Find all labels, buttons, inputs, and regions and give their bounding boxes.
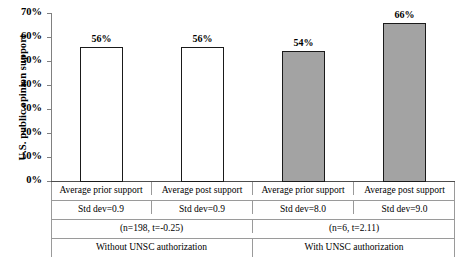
std-dev-row: Std dev=0.9 Std dev=0.9 Std dev=8.0 Std … (51, 201, 455, 214)
bar-value-label-1: 56% (80, 33, 123, 44)
y-tick-mark (47, 61, 51, 62)
bar-value-label-3: 54% (282, 37, 325, 48)
y-tick-label: 0% (26, 174, 42, 185)
bar-chart-figure: U.S. public opinion support 70% 60% 50% … (0, 0, 462, 257)
category-label-2: Average post support (152, 182, 253, 195)
y-axis-line (51, 13, 52, 182)
table-left-border (51, 182, 52, 257)
bar-2[interactable] (181, 47, 224, 182)
y-tick-label: 30% (21, 102, 42, 113)
y-tick-label: 50% (21, 54, 42, 65)
y-tick-label: 20% (21, 126, 42, 137)
y-tick-mark (47, 37, 51, 38)
y-tick-mark (47, 157, 51, 158)
bar-4[interactable] (383, 23, 426, 182)
group-label-2: With UNSC authorization (253, 239, 455, 257)
group-row: Without UNSC authorization With UNSC aut… (51, 239, 455, 257)
category-label-1: Average prior support (51, 182, 152, 195)
table-right-border (454, 182, 455, 257)
y-tick-mark (47, 13, 51, 14)
bar-value-label-4: 66% (383, 9, 426, 20)
bar-1[interactable] (80, 47, 123, 182)
std-dev-label-4: Std dev=9.0 (354, 201, 455, 214)
std-dev-label-1: Std dev=0.9 (51, 201, 152, 214)
y-tick-label: 10% (21, 150, 42, 161)
std-dev-label-3: Std dev=8.0 (253, 201, 354, 214)
category-label-3: Average prior support (253, 182, 354, 195)
category-label-table: Average prior support Average post suppo… (51, 182, 455, 257)
group-label-1: Without UNSC authorization (51, 239, 253, 257)
category-label-4: Average post support (354, 182, 455, 195)
bar-3[interactable] (282, 51, 325, 182)
bar-value-label-2: 56% (181, 33, 224, 44)
y-tick-label: 70% (21, 6, 42, 17)
y-tick-mark (47, 109, 51, 110)
y-tick-mark (47, 85, 51, 86)
stats-row: (n=198, t=-0.25) (n=6, t=2.11) (51, 220, 455, 233)
group-stats-1: (n=198, t=-0.25) (51, 220, 253, 233)
y-tick-label: 60% (21, 30, 42, 41)
y-tick-mark (47, 133, 51, 134)
category-row: Average prior support Average post suppo… (51, 182, 455, 195)
group-stats-2: (n=6, t=2.11) (253, 220, 455, 233)
y-tick-label: 40% (21, 78, 42, 89)
std-dev-label-2: Std dev=0.9 (152, 201, 253, 214)
